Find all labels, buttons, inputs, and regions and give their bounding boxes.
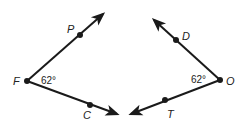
angles-diagram: F P C 62° O D T 62° [0,0,246,130]
label-f: F [13,75,21,87]
angle-measure-left: 62° [41,75,56,86]
vertex-o-point [217,77,223,83]
label-c: C [83,109,91,121]
label-o: O [226,75,235,87]
label-t: T [167,108,175,120]
ray-od [154,20,220,80]
point-p [77,32,83,38]
ray-fp [27,14,103,81]
angle-dot: O D T 62° [131,20,235,120]
point-c [87,102,93,108]
point-t [162,97,168,103]
angle-pfc: F P C 62° [13,14,117,121]
label-d: D [182,30,190,42]
label-p: P [67,23,75,35]
vertex-f-point [24,78,30,84]
ray-ot [131,80,220,114]
point-d [173,37,179,43]
angle-measure-right: 62° [191,74,206,85]
